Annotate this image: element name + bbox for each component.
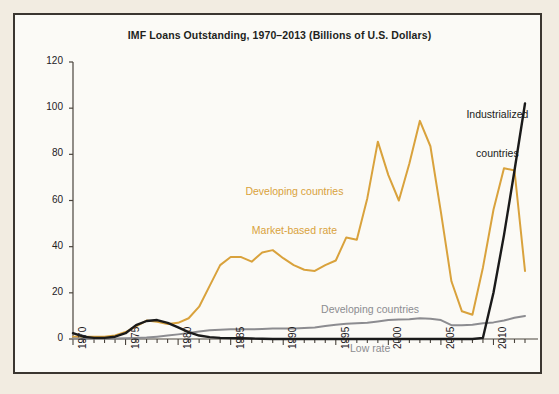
annotation-line-2: Low rate [321, 342, 419, 355]
x-axis-tick-label: 1980 [182, 327, 193, 349]
annotation-developing-market-rate: Developing countries Market-based rate [245, 159, 343, 263]
annotation-developing-low-rate: Developing countries Low rate [321, 277, 419, 381]
y-axis-tick-label: 0 [29, 332, 63, 343]
y-axis-tick-label: 60 [29, 194, 63, 205]
y-axis-tick-label: 20 [29, 286, 63, 297]
x-axis-tick-label: 1970 [77, 327, 88, 349]
x-axis-tick-label: 2010 [497, 327, 508, 349]
x-axis-tick-label: 1985 [235, 327, 246, 349]
x-axis-tick-label: 1975 [130, 327, 141, 349]
y-axis-tick-label: 120 [29, 55, 63, 66]
chart-panel: IMF Loans Outstanding, 1970–2013 (Billio… [13, 13, 542, 374]
x-axis-tick-label: 2005 [445, 327, 456, 349]
annotation-industrialized-countries: Industrialized countries [466, 82, 528, 186]
annotation-line-2: Market-based rate [245, 224, 343, 237]
y-axis-tick-label: 100 [29, 101, 63, 112]
annotation-line-1: Developing countries [321, 303, 419, 316]
figure-container: IMF Loans Outstanding, 1970–2013 (Billio… [0, 0, 559, 394]
y-axis-tick-label: 80 [29, 147, 63, 158]
annotation-line-1: Developing countries [245, 185, 343, 198]
annotation-line-1: Industrialized [466, 108, 528, 121]
y-axis-tick-label: 40 [29, 240, 63, 251]
x-axis-tick-label: 1990 [287, 327, 298, 349]
annotation-line-2: countries [466, 147, 528, 160]
